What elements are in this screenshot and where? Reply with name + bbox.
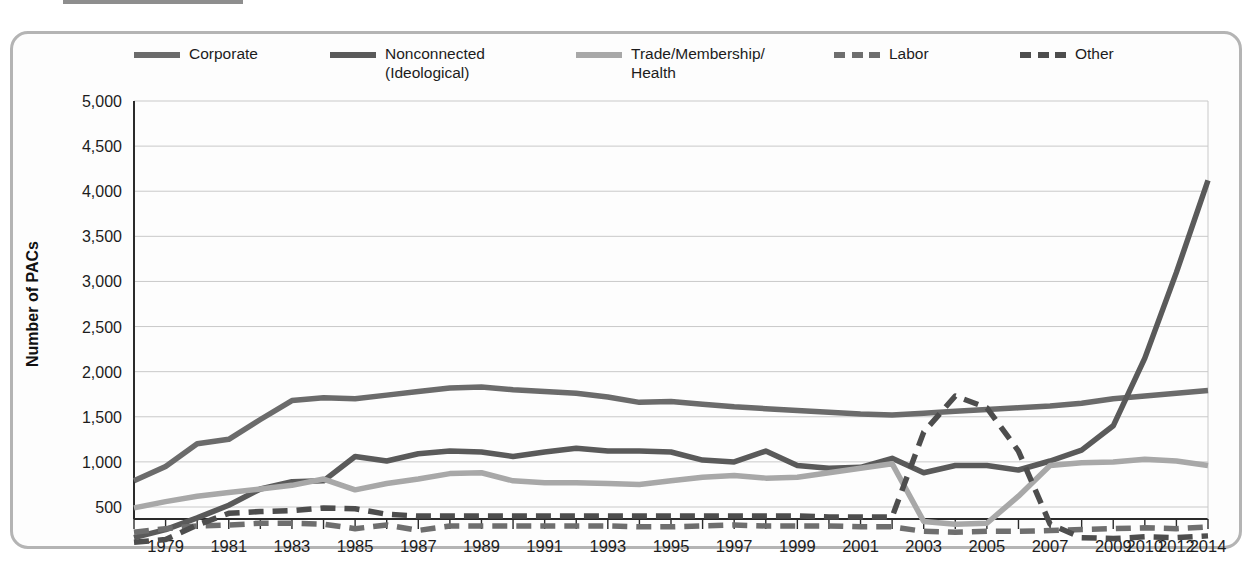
legend-item-trade-membership: Trade/Membership/ Health	[576, 44, 834, 82]
figure-frame	[10, 31, 1242, 549]
title-strip: Growth of PACs, 1978-2014	[0, 0, 1259, 22]
chart-legend: CorporateNonconnected (Ideological)Trade…	[134, 44, 1224, 90]
legend-label: Labor	[889, 44, 929, 63]
legend-label: Trade/Membership/ Health	[631, 44, 765, 82]
page-title: Growth of PACs, 1978-2014	[258, 0, 509, 2]
legend-label: Corporate	[189, 44, 258, 63]
legend-item-nonconnected: Nonconnected (Ideological)	[330, 44, 576, 82]
title-color-swatch	[63, 0, 243, 4]
legend-item-other: Other	[1020, 44, 1180, 63]
legend-swatch-solid	[134, 52, 180, 58]
legend-label: Nonconnected (Ideological)	[385, 44, 485, 82]
legend-swatch-solid	[330, 52, 376, 58]
legend-swatch-solid	[576, 52, 622, 58]
legend-swatch-dashed	[1020, 52, 1066, 58]
legend-label: Other	[1075, 44, 1114, 63]
legend-item-labor: Labor	[834, 44, 1020, 63]
legend-swatch-dashed	[834, 52, 880, 58]
legend-item-corporate: Corporate	[134, 44, 330, 63]
